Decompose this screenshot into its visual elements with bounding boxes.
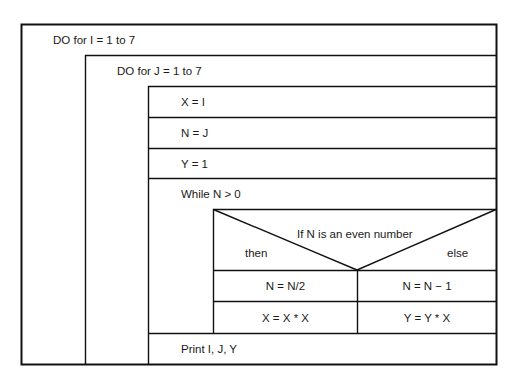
inner-loop-label: DO for J = 1 to 7 xyxy=(117,64,202,78)
statement-x-assign: X = I xyxy=(181,95,205,109)
diagram-lines xyxy=(0,0,516,383)
while-loop-label: While N > 0 xyxy=(181,187,241,201)
statement-n-assign: N = J xyxy=(181,126,208,140)
print-statement: Print I, J, Y xyxy=(181,342,237,356)
else-statement-2: Y = Y * X xyxy=(358,311,496,325)
decision-condition: If N is an even number xyxy=(297,227,413,241)
then-statement-1: N = N/2 xyxy=(214,279,357,293)
outer-loop-label: DO for I = 1 to 7 xyxy=(53,33,135,47)
then-statement-2: X = X * X xyxy=(214,311,357,325)
statement-y-assign: Y = 1 xyxy=(181,157,208,171)
nassi-shneiderman-diagram: DO for I = 1 to 7 DO for J = 1 to 7 X = … xyxy=(0,0,516,383)
decision-else-label: else xyxy=(447,246,468,260)
decision-then-label: then xyxy=(245,246,267,260)
else-statement-1: N = N − 1 xyxy=(358,279,496,293)
